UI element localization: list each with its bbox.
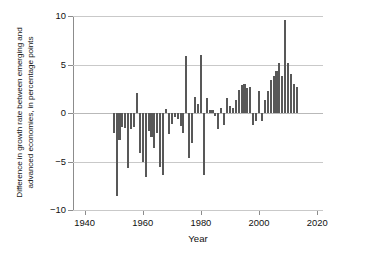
x-tick-2000 <box>259 211 260 215</box>
bar <box>261 113 263 121</box>
y-tick-label--5: −5 <box>26 156 66 167</box>
gridline-y--10 <box>73 210 323 211</box>
bar <box>264 100 266 113</box>
bar <box>217 113 219 129</box>
bar <box>121 113 123 127</box>
x-tick-1940 <box>85 211 86 215</box>
bar <box>159 113 161 167</box>
bar <box>211 110 213 113</box>
bar <box>290 74 292 113</box>
bar <box>284 20 286 113</box>
bar <box>229 106 231 113</box>
bar <box>200 55 202 113</box>
bar <box>296 87 298 113</box>
bar <box>238 90 240 113</box>
bar <box>116 113 118 196</box>
bar <box>118 113 120 140</box>
bar <box>197 104 199 113</box>
bar <box>270 80 272 113</box>
bar <box>177 113 179 119</box>
bar <box>214 113 216 116</box>
bar <box>145 113 147 177</box>
bar <box>209 110 211 113</box>
bar <box>275 71 277 113</box>
y-tick-label-10: 10 <box>26 10 66 21</box>
bar <box>127 113 129 168</box>
bar <box>148 113 150 131</box>
bar <box>203 113 205 175</box>
bar <box>150 113 152 137</box>
bar <box>246 88 248 113</box>
y-tick-label--10: −10 <box>26 204 66 215</box>
bar <box>220 108 222 113</box>
x-tick-1960 <box>143 211 144 215</box>
bar <box>171 113 173 124</box>
bar <box>188 113 190 158</box>
x-tick-label-2020: 2020 <box>297 217 337 228</box>
bar <box>165 109 167 113</box>
bar <box>130 113 132 129</box>
bar <box>185 56 187 113</box>
bar <box>182 113 184 133</box>
bar <box>287 63 289 113</box>
bar <box>267 91 269 113</box>
bar <box>255 113 257 121</box>
y-axis-label-line1: Difference in growth rate between emergi… <box>15 27 26 197</box>
x-tick-label-1960: 1960 <box>123 217 163 228</box>
bar <box>153 113 155 148</box>
x-tick-label-2000: 2000 <box>239 217 279 228</box>
bar <box>252 113 254 125</box>
bar <box>113 113 115 133</box>
bar-chart-figure: Difference in growth rate between emergi… <box>0 0 375 257</box>
bar <box>162 113 164 175</box>
x-tick-2020 <box>317 211 318 215</box>
bar <box>281 76 283 113</box>
bar <box>156 113 158 133</box>
bar <box>124 113 126 128</box>
bar <box>142 113 144 162</box>
bar <box>235 100 237 113</box>
x-tick-1980 <box>201 211 202 215</box>
bar <box>273 76 275 113</box>
y-tick-label-5: 5 <box>26 59 66 70</box>
bar <box>168 113 170 134</box>
plot-area <box>73 16 323 210</box>
bar <box>180 113 182 126</box>
bar <box>194 97 196 113</box>
bar <box>223 113 225 125</box>
x-tick-label-1980: 1980 <box>181 217 221 228</box>
bar <box>258 91 260 113</box>
bar <box>174 113 176 117</box>
bar <box>133 113 135 127</box>
bar <box>278 63 280 113</box>
bar <box>232 108 234 113</box>
bar <box>241 85 243 113</box>
bar <box>136 93 138 113</box>
bar <box>139 113 141 153</box>
bar <box>206 98 208 113</box>
bar <box>226 98 228 113</box>
x-axis-label: Year <box>73 233 323 244</box>
bar <box>243 84 245 113</box>
bar <box>249 87 251 113</box>
bar <box>293 84 295 113</box>
y-tick-label-0: 0 <box>26 107 66 118</box>
y-tick--10 <box>68 210 73 211</box>
x-tick-label-1940: 1940 <box>65 217 105 228</box>
bar <box>191 113 193 143</box>
